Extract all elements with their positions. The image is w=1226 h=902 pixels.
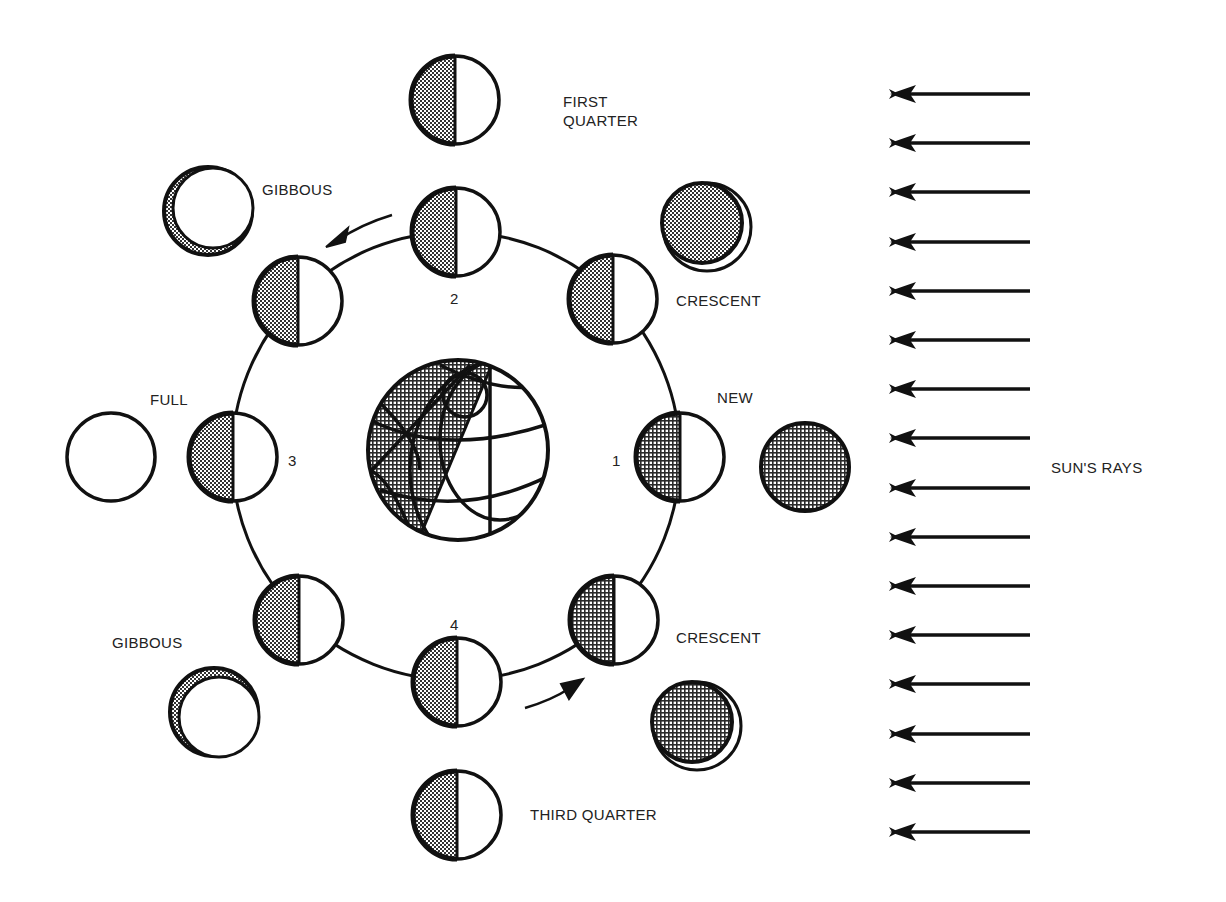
moon-phase-full: [67, 413, 155, 501]
position-number-4: 4: [450, 616, 458, 633]
earth-globe: [360, 350, 600, 580]
label-gibbous-bottom: GIBBOUS: [112, 633, 182, 652]
moon-phase-crescent-bottom: [652, 682, 741, 770]
label-new: NEW: [717, 388, 753, 407]
position-number-1: 1: [612, 452, 620, 469]
orbit-direction-arrow-bottom: [525, 679, 583, 708]
orbit-moon-bottom: [413, 638, 501, 726]
moon-phase-third-quarter: [413, 771, 501, 859]
label-full: FULL: [150, 390, 188, 409]
moon-phase-new: [761, 423, 849, 511]
orbit-moon-upper-right: [569, 255, 657, 343]
orbit-moon-left: [189, 413, 277, 501]
moon-phase-gibbous-top: [164, 167, 253, 255]
orbit-moon-lower-left: [255, 576, 343, 664]
moon-phase-gibbous-bottom: [170, 668, 259, 757]
orbit-moon-top: [412, 188, 500, 276]
label-third-quarter: THIRD QUARTER: [530, 805, 657, 824]
moon-phase-first-quarter: [411, 56, 499, 144]
label-crescent-top: CRESCENT: [676, 291, 761, 310]
position-number-2: 2: [450, 290, 458, 307]
label-first-quarter: FIRST QUARTER: [563, 92, 638, 130]
sun-rays: [890, 85, 1030, 841]
moon-phases-diagram: [0, 0, 1226, 902]
orbit-moon-right: [636, 413, 724, 501]
label-crescent-bottom: CRESCENT: [676, 628, 761, 647]
orbit-moon-lower-right: [570, 576, 658, 664]
position-number-3: 3: [288, 452, 296, 469]
label-gibbous-top: GIBBOUS: [262, 180, 332, 199]
label-suns-rays: SUN'S RAYS: [1051, 458, 1142, 477]
orbit-direction-arrow-top: [326, 215, 392, 247]
orbit-moon-upper-left: [254, 257, 342, 345]
moon-phase-waxing-crescent-top: [662, 183, 751, 271]
